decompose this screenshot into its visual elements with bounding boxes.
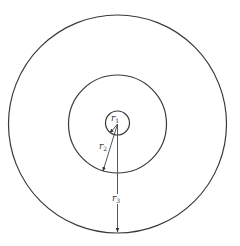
- label-r1-sub: 1: [115, 117, 119, 124]
- label-r3-sub: 3: [116, 197, 120, 204]
- label-r3: r3: [111, 194, 121, 204]
- label-r2-sub: 2: [103, 145, 107, 152]
- label-r1: r1: [110, 114, 120, 124]
- label-r2: r2: [98, 142, 108, 152]
